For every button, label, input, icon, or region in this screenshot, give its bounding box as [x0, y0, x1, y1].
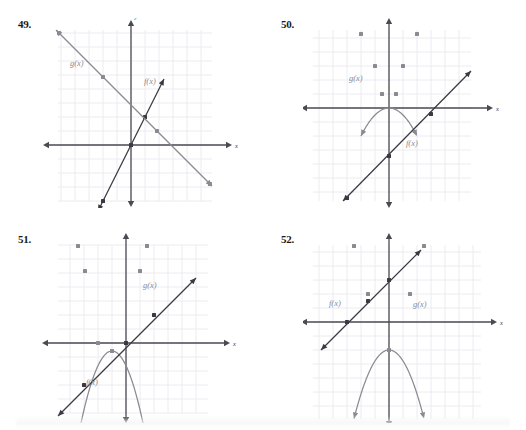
problem-number: 49.: [18, 18, 31, 30]
panel-51-graph: xyg(x)f(x): [40, 233, 240, 423]
curve-fx: f(x): [321, 250, 421, 350]
coordinate-grid: [313, 30, 471, 201]
panel-52-graph: xyg(x)f(x): [303, 233, 503, 423]
worksheet-page: 49.xyf(x)g(x)50.xyg(x)f(x)51.xyg(x)f(x)5…: [0, 0, 526, 430]
problem-number: 51.: [18, 233, 31, 245]
function-label: f(x): [86, 377, 98, 387]
x-axis-label: x: [232, 340, 236, 347]
function-label: g(x): [143, 280, 157, 290]
problem-number: 52.: [281, 233, 294, 245]
function-label: f(x): [329, 298, 341, 308]
function-label: g(x): [413, 299, 427, 309]
x-axis-label: x: [499, 319, 503, 326]
curve-gx: g(x): [76, 244, 157, 423]
curve-gx: g(x): [349, 32, 419, 136]
panel-50-graph: xyg(x)f(x): [303, 18, 503, 208]
function-label: f(x): [144, 76, 156, 86]
page-bottom-artifact: [16, 416, 510, 428]
axes: [303, 233, 497, 423]
function-label: f(x): [406, 138, 418, 148]
function-label: g(x): [70, 58, 84, 68]
coordinate-grid: [58, 245, 208, 413]
panel-49-graph: xyf(x)g(x): [40, 18, 240, 208]
x-axis-label: x: [234, 142, 238, 149]
curve-fx: f(x): [58, 278, 196, 416]
x-axis-label: x: [495, 105, 499, 112]
problem-number: 50.: [281, 18, 294, 30]
function-label: g(x): [349, 73, 363, 83]
y-axis-label: y: [134, 18, 138, 20]
axes: [43, 20, 232, 207]
curve-gx: g(x): [56, 30, 212, 186]
axes: [303, 18, 493, 208]
